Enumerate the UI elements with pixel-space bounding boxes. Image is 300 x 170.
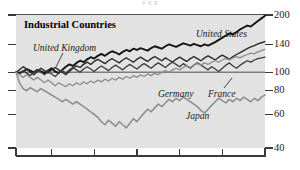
line-france (16, 57, 265, 76)
series-label-japan: Japan (186, 112, 209, 122)
panel-title: Industrial Countries (24, 19, 116, 30)
series-label-united-states: United States (196, 30, 247, 40)
line-japan (16, 72, 265, 128)
chart-figure: p g g 406080100140200 Industrial Countri… (0, 0, 300, 170)
series-label-united-kingdom: United Kingdom (33, 44, 96, 54)
series-label-france: France (208, 90, 235, 100)
leader-line-united-kingdom (56, 53, 63, 67)
leader-line-france (224, 78, 232, 88)
series-label-germany: Germany (158, 90, 193, 100)
